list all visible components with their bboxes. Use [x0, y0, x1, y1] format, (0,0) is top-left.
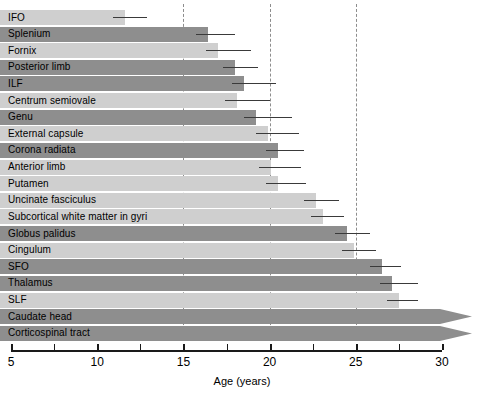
- bar-row: Thalamus: [0, 276, 484, 291]
- error-bar: [311, 216, 344, 217]
- error-bar: [304, 200, 338, 201]
- x-axis-tick: [183, 344, 185, 350]
- error-bar: [223, 67, 257, 68]
- x-axis-tick-label: 5: [8, 356, 15, 368]
- error-bar: [232, 83, 277, 84]
- plot-area: IFOSpleniumFornixPosterior limbILFCentru…: [0, 0, 484, 340]
- x-axis-tick: [356, 344, 358, 350]
- bar-category-label: Caudate head: [8, 312, 72, 322]
- bar-category-label: Cingulum: [8, 245, 51, 255]
- bar-category-label: SFO: [8, 262, 29, 272]
- bar-row: Corona radiata: [0, 143, 484, 158]
- x-axis-minor-tick: [54, 344, 55, 350]
- x-axis-tick: [11, 344, 13, 350]
- bar-row: Corticospinal tract: [0, 326, 484, 341]
- bar: [0, 259, 382, 274]
- x-axis-tick-label: 15: [177, 356, 190, 368]
- bar-row: SLF: [0, 293, 484, 308]
- bar-category-label: Fornix: [8, 46, 36, 56]
- error-bar: [266, 183, 306, 184]
- bar-category-label: External capsule: [8, 129, 84, 139]
- x-axis-tick: [442, 344, 444, 350]
- bar-category-label: Posterior limb: [8, 62, 71, 72]
- error-bar: [380, 283, 418, 284]
- bar-category-label: Anterior limb: [8, 162, 65, 172]
- bar-category-label: Thalamus: [8, 278, 53, 288]
- bar-row: Genu: [0, 110, 484, 125]
- bar-row: Uncinate fasciculus: [0, 193, 484, 208]
- bar-row: Splenium: [0, 27, 484, 42]
- bar-row: Cingulum: [0, 243, 484, 258]
- bar-category-label: Splenium: [8, 29, 51, 39]
- x-axis-minor-tick: [399, 344, 400, 350]
- bar-row: Posterior limb: [0, 60, 484, 75]
- bar-row: SFO: [0, 259, 484, 274]
- bar-row: Anterior limb: [0, 160, 484, 175]
- error-bar: [259, 167, 300, 168]
- bar-category-label: Putamen: [8, 179, 49, 189]
- bar-row: External capsule: [0, 126, 484, 141]
- error-bar: [370, 266, 401, 267]
- x-axis-tick-label: 10: [91, 356, 104, 368]
- maturation-age-bar-chart: IFOSpleniumFornixPosterior limbILFCentru…: [0, 0, 484, 395]
- error-bar: [335, 233, 369, 234]
- x-axis-tick-label: 20: [263, 356, 276, 368]
- bar: [0, 243, 354, 258]
- x-axis-minor-tick: [227, 344, 228, 350]
- bar-category-label: Subcortical white matter in gyri: [8, 212, 147, 222]
- bar-category-label: Centrum semiovale: [8, 96, 96, 106]
- error-bar: [244, 117, 292, 118]
- bar-category-label: Uncinate fasciculus: [8, 195, 96, 205]
- bar-row: Subcortical white matter in gyri: [0, 209, 484, 224]
- bar: [0, 276, 392, 291]
- bar-row: Globus palidus: [0, 226, 484, 241]
- bar: [0, 293, 399, 308]
- bar-category-label: Corona radiata: [8, 145, 76, 155]
- bar-category-label: Globus palidus: [8, 229, 76, 239]
- x-axis-tick: [97, 344, 99, 350]
- bar-category-label: Genu: [8, 112, 33, 122]
- bar-row: Caudate head: [0, 309, 484, 324]
- bar-row: Putamen: [0, 176, 484, 191]
- error-bar: [196, 34, 236, 35]
- x-axis-title: Age (years): [0, 375, 484, 387]
- bar: [0, 110, 256, 125]
- error-bar: [387, 300, 418, 301]
- error-bar: [256, 133, 299, 134]
- bar-row: Centrum semiovale: [0, 93, 484, 108]
- x-axis-tick-label: 30: [435, 356, 448, 368]
- error-bar: [225, 100, 270, 101]
- bar-category-label: ILF: [8, 79, 23, 89]
- bar-row: Fornix: [0, 43, 484, 58]
- x-axis-minor-tick: [313, 344, 314, 350]
- error-bar: [113, 17, 147, 18]
- bar: [0, 76, 244, 91]
- bar-row: IFO: [0, 10, 484, 25]
- x-axis-minor-tick: [140, 344, 141, 350]
- error-bar: [342, 250, 376, 251]
- bar-category-label: Corticospinal tract: [8, 328, 90, 338]
- error-bar: [206, 50, 251, 51]
- error-bar: [266, 150, 304, 151]
- x-axis-line: [11, 350, 442, 352]
- bar-row: ILF: [0, 76, 484, 91]
- bar-category-label: SLF: [8, 295, 27, 305]
- x-axis-tick-label: 25: [349, 356, 362, 368]
- bar-category-label: IFO: [8, 13, 25, 23]
- x-axis-tick: [270, 344, 272, 350]
